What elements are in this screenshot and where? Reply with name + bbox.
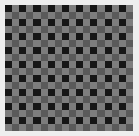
- checker-cell: [41, 33, 48, 40]
- checker-cell: [105, 54, 112, 61]
- checker-cell: [12, 96, 19, 103]
- checker-cell: [62, 19, 69, 26]
- checker-cell: [97, 19, 104, 26]
- checker-cell: [76, 68, 83, 75]
- checker-cell: [126, 75, 133, 82]
- checker-cell: [76, 96, 83, 103]
- checker-cell: [119, 40, 126, 47]
- checker-cell: [97, 47, 104, 54]
- checker-cell: [105, 5, 112, 12]
- checker-cell: [90, 110, 97, 117]
- checker-cell: [41, 96, 48, 103]
- checker-cell: [83, 19, 90, 26]
- checker-cell: [69, 89, 76, 96]
- checker-cell: [62, 89, 69, 96]
- checker-cell: [112, 75, 119, 82]
- checker-cell: [12, 82, 19, 89]
- checker-cell: [126, 82, 133, 89]
- checker-cell: [90, 89, 97, 96]
- checker-cell: [119, 26, 126, 33]
- checker-cell: [41, 82, 48, 89]
- checker-cell: [19, 68, 26, 75]
- checker-cell: [12, 124, 19, 131]
- checker-cell: [5, 110, 12, 117]
- checker-cell: [83, 12, 90, 19]
- checker-cell: [83, 96, 90, 103]
- checker-cell: [69, 26, 76, 33]
- checker-cell: [62, 12, 69, 19]
- checker-cell: [12, 75, 19, 82]
- checker-cell: [33, 103, 40, 110]
- checker-cell: [55, 12, 62, 19]
- checker-cell: [105, 61, 112, 68]
- checker-cell: [33, 110, 40, 117]
- checker-cell: [26, 103, 33, 110]
- checker-cell: [97, 61, 104, 68]
- checker-cell: [119, 5, 126, 12]
- checker-cell: [48, 117, 55, 124]
- checker-cell: [41, 124, 48, 131]
- checker-cell: [12, 110, 19, 117]
- checker-cell: [41, 40, 48, 47]
- checker-cell: [119, 75, 126, 82]
- checker-cell: [112, 110, 119, 117]
- checker-cell: [126, 26, 133, 33]
- checker-cell: [19, 124, 26, 131]
- checker-cell: [12, 68, 19, 75]
- checker-cell: [90, 61, 97, 68]
- checker-cell: [105, 103, 112, 110]
- checker-cell: [69, 54, 76, 61]
- checker-cell: [83, 110, 90, 117]
- checker-cell: [69, 82, 76, 89]
- checker-cell: [33, 68, 40, 75]
- checker-cell: [12, 47, 19, 54]
- checker-cell: [119, 12, 126, 19]
- checker-cell: [48, 68, 55, 75]
- checker-cell: [26, 54, 33, 61]
- checker-cell: [90, 40, 97, 47]
- checker-cell: [12, 61, 19, 68]
- checker-cell: [69, 75, 76, 82]
- checker-cell: [97, 75, 104, 82]
- checker-cell: [19, 54, 26, 61]
- checker-cell: [62, 5, 69, 12]
- checker-cell: [119, 89, 126, 96]
- checker-cell: [55, 33, 62, 40]
- checker-cell: [19, 96, 26, 103]
- checker-cell: [33, 33, 40, 40]
- checker-cell: [105, 96, 112, 103]
- checker-cell: [12, 40, 19, 47]
- checker-cell: [55, 124, 62, 131]
- checker-cell: [26, 68, 33, 75]
- checker-cell: [126, 5, 133, 12]
- checker-cell: [12, 117, 19, 124]
- checker-cell: [5, 124, 12, 131]
- checker-cell: [41, 103, 48, 110]
- checker-cell: [126, 96, 133, 103]
- checker-cell: [48, 89, 55, 96]
- checker-cell: [33, 54, 40, 61]
- checker-cell: [119, 54, 126, 61]
- checker-cell: [126, 103, 133, 110]
- checker-cell: [48, 75, 55, 82]
- checker-cell: [12, 26, 19, 33]
- checker-cell: [5, 26, 12, 33]
- checker-cell: [119, 33, 126, 40]
- checker-cell: [69, 33, 76, 40]
- checker-cell: [26, 117, 33, 124]
- checker-cell: [97, 117, 104, 124]
- checker-cell: [126, 12, 133, 19]
- checker-cell: [126, 124, 133, 131]
- checker-cell: [55, 5, 62, 12]
- checker-cell: [19, 117, 26, 124]
- checker-cell: [76, 47, 83, 54]
- checker-cell: [90, 96, 97, 103]
- checker-cell: [5, 5, 12, 12]
- checker-cell: [97, 33, 104, 40]
- checker-cell: [12, 33, 19, 40]
- checkerboard-grid: [5, 5, 133, 131]
- checker-cell: [26, 82, 33, 89]
- checker-cell: [97, 68, 104, 75]
- checker-cell: [112, 54, 119, 61]
- checker-cell: [112, 68, 119, 75]
